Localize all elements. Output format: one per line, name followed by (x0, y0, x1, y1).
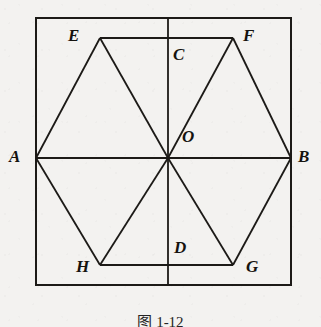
hexagon-side-FB (233, 38, 291, 158)
vertex-label-f: F (243, 27, 254, 44)
vertex-label-d: D (174, 239, 186, 256)
hexagon-side-BG (233, 158, 291, 265)
vertex-label-h: H (76, 258, 89, 275)
vertex-label-o: O (182, 128, 194, 145)
hexagon-side-AE (36, 38, 100, 158)
vertex-label-a: A (9, 148, 20, 165)
hexagon-side-HA (36, 158, 100, 265)
radius-OE (100, 38, 168, 158)
figure-caption-text: 图 1-12 (0, 314, 321, 327)
geometry-diagram (0, 0, 321, 327)
vertex-label-e: E (68, 27, 79, 44)
radius-OH (100, 158, 168, 265)
figure-container: A B C D E F G H O 图 1-12 (0, 0, 321, 327)
vertex-label-c: C (173, 46, 184, 63)
figure-caption: 图 1-12 (0, 314, 321, 327)
radii-group (100, 38, 233, 265)
vertex-label-g: G (246, 258, 258, 275)
vertex-label-b: B (298, 148, 309, 165)
